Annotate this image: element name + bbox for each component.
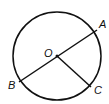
radius-oc bbox=[57, 56, 91, 87]
circle-diagram: A B C O bbox=[0, 0, 109, 104]
label-o: O bbox=[44, 47, 53, 59]
center-point bbox=[56, 55, 59, 58]
label-a: A bbox=[98, 18, 106, 30]
label-c: C bbox=[94, 84, 102, 96]
label-b: B bbox=[8, 79, 15, 91]
